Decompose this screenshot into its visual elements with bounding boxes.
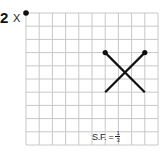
scale-factor-prefix: S.F. = [92,132,113,142]
grid-diagram [0,0,167,156]
endpoint-dot [103,50,108,55]
scale-factor-denominator: 3 [116,137,119,143]
center-of-enlargement-dot [23,10,29,16]
scale-factor-label: S.F. = 1 3 [92,130,120,143]
scale-factor-fraction: 1 3 [115,130,120,143]
endpoint-dot [142,50,147,55]
